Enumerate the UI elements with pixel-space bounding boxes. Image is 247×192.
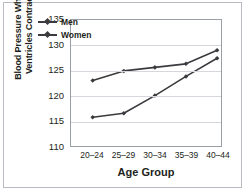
data-point bbox=[153, 65, 158, 70]
y-tick-label: 110 bbox=[26, 142, 64, 152]
gridline bbox=[71, 96, 221, 97]
data-point bbox=[90, 115, 95, 120]
y-tick-label: 115 bbox=[26, 116, 64, 126]
gridline bbox=[71, 71, 221, 72]
chart-figure: Blood Pressure When Ventricles Contract … bbox=[3, 2, 242, 188]
data-point bbox=[184, 62, 189, 67]
legend-marker-icon bbox=[38, 17, 57, 26]
series-men bbox=[90, 48, 219, 83]
y-axis-title: Blood Pressure When Ventricles Contract bbox=[13, 0, 39, 100]
legend-item-women[interactable]: Women bbox=[38, 28, 112, 41]
chart-legend: MenWomen bbox=[38, 15, 112, 41]
legend-label: Men bbox=[57, 17, 78, 27]
legend-label: Women bbox=[57, 30, 92, 40]
legend-item-men[interactable]: Men bbox=[38, 15, 112, 28]
data-point bbox=[90, 78, 95, 83]
gridline bbox=[71, 122, 221, 123]
gridline bbox=[71, 45, 221, 46]
x-tick-label: 40–44 bbox=[196, 150, 240, 160]
data-point bbox=[215, 48, 220, 53]
legend-marker-icon bbox=[38, 30, 57, 39]
x-axis-title: Age Group bbox=[70, 166, 222, 178]
